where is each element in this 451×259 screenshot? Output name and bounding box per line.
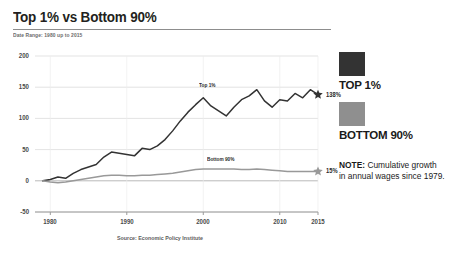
legend-swatch-top-1 — [339, 52, 365, 76]
end-value-label-bottom-90-: 15% — [326, 167, 338, 174]
series-label-bottom-90-: Bottom 90% — [207, 156, 234, 162]
chart-source: Source: Economic Policy Institute — [8, 235, 312, 241]
legend-swatch-bottom-90 — [339, 102, 365, 126]
legend-item-bottom-90: BOTTOM 90% — [339, 102, 444, 141]
x-axis-tick-1990: 1990 — [111, 218, 142, 225]
legend-label-top-1: TOP 1% — [339, 79, 444, 91]
x-axis-tick-2010: 2010 — [264, 218, 295, 225]
chart-legend: TOP 1% BOTTOM 90% — [339, 52, 444, 152]
legend-item-top-1: TOP 1% — [339, 52, 444, 91]
x-axis-tick-2015: 2015 — [302, 218, 333, 225]
infographic-chart-panel: Top 1% vs Bottom 90% Date Range: 1980 up… — [0, 0, 451, 259]
legend-label-bottom-90: BOTTOM 90% — [339, 129, 444, 141]
y-axis-tick--50: -50 — [7, 208, 29, 215]
chart-note: NOTE: Cumulative growth in annual wages … — [339, 160, 445, 182]
series-label-top-1-: Top 1% — [199, 82, 216, 88]
y-axis-tick-200: 200 — [7, 52, 29, 59]
x-axis-tick-1980: 1980 — [35, 218, 66, 225]
y-axis-tick-0: 0 — [7, 177, 29, 184]
y-axis-tick-100: 100 — [7, 114, 29, 121]
note-prefix: NOTE: — [339, 160, 365, 170]
x-axis-tick-2000: 2000 — [188, 218, 219, 225]
y-axis-tick-50: 50 — [7, 146, 29, 153]
y-axis-tick-150: 150 — [7, 83, 29, 90]
